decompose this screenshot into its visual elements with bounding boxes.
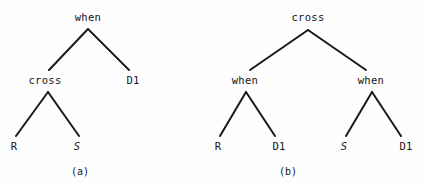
- tree-edge-b-right-when-to-d1: [372, 92, 401, 136]
- tree-node-a-root: when: [75, 11, 102, 23]
- figure-caption-b: (b): [279, 166, 297, 178]
- tree-edge-layer: [0, 0, 423, 189]
- tree-node-b-leaf-left-r: R: [215, 140, 222, 152]
- tree-edge-a-cross-to-s: [48, 92, 79, 136]
- tree-node-b-right-when: when: [358, 74, 385, 86]
- figure-root: whencrossD1RS(a)crosswhenwhenRD1SD1(b): [0, 0, 423, 189]
- tree-edge-b-right-when-to-s: [346, 92, 372, 136]
- tree-node-b-root: cross: [291, 11, 324, 23]
- tree-edge-a-root-to-cross: [49, 29, 88, 70]
- tree-edge-b-root-to-right-when: [308, 30, 366, 70]
- tree-node-a-leaf-left: R: [11, 140, 18, 152]
- tree-node-b-left-when: when: [232, 74, 259, 86]
- tree-edge-a-cross-to-r: [16, 92, 48, 136]
- tree-node-b-leaf-left-d1: D1: [272, 140, 285, 152]
- tree-node-a-right-child: D1: [126, 74, 139, 86]
- tree-edge-b-root-to-left-when: [250, 30, 308, 70]
- tree-node-b-leaf-right-s: S: [341, 140, 348, 152]
- tree-node-a-leaf-right: S: [74, 140, 81, 152]
- tree-node-a-left-child: cross: [28, 74, 61, 86]
- tree-node-b-leaf-right-d1: D1: [399, 140, 412, 152]
- tree-edge-b-left-when-to-d1: [246, 92, 275, 136]
- tree-edge-b-left-when-to-r: [220, 92, 246, 136]
- figure-caption-a: (a): [71, 166, 89, 178]
- tree-edge-a-root-to-d1: [88, 29, 129, 70]
